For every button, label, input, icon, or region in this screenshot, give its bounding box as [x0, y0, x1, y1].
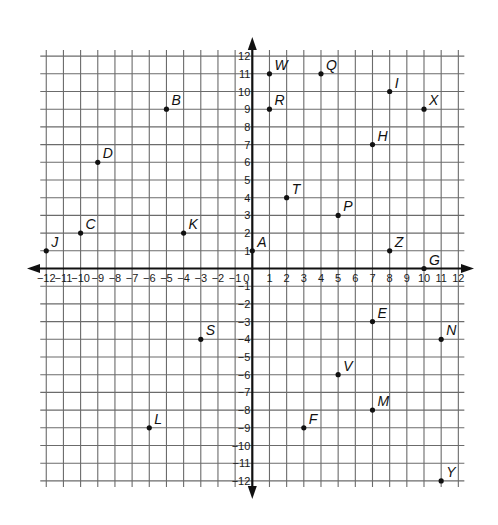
y-tick-label: −9 — [238, 422, 251, 434]
x-tick-label: 2 — [284, 272, 290, 284]
x-tick-label: 9 — [404, 272, 410, 284]
point-label: E — [377, 305, 387, 321]
point-marker — [336, 372, 341, 377]
point-label: W — [274, 57, 289, 73]
point-marker — [370, 142, 375, 147]
point-label: G — [429, 252, 440, 268]
point-marker — [439, 478, 444, 483]
y-tick-label: −7 — [238, 386, 251, 398]
point-marker — [301, 425, 306, 430]
point-marker — [267, 107, 272, 112]
point-label: Y — [446, 464, 457, 480]
point-marker — [164, 107, 169, 112]
x-tick-label: 6 — [352, 272, 358, 284]
y-tick-label: 7 — [244, 139, 250, 151]
point-marker — [421, 107, 426, 112]
y-tick-label: 6 — [244, 156, 250, 168]
point-marker — [387, 248, 392, 253]
point-label: Z — [394, 234, 404, 250]
point-marker — [78, 231, 83, 236]
y-tick-label: 11 — [239, 68, 250, 80]
point-label: I — [395, 75, 399, 91]
x-tick-label: 11 — [435, 272, 446, 284]
x-tick-label: −9 — [91, 272, 104, 284]
x-tick-label: 5 — [335, 272, 341, 284]
y-tick-label: 9 — [244, 103, 250, 115]
y-tick-label: 12 — [238, 50, 250, 62]
point-label: B — [171, 92, 180, 108]
point-marker — [250, 248, 255, 253]
x-tick-label: −6 — [143, 272, 156, 284]
y-tick-label: 5 — [244, 174, 250, 186]
point-marker — [370, 319, 375, 324]
x-tick-label: 1 — [266, 272, 272, 284]
point-label: X — [428, 92, 439, 108]
x-tick-label: 3 — [301, 272, 307, 284]
point-label: K — [189, 216, 199, 232]
x-tick-label: −11 — [55, 272, 73, 284]
y-tick-label: −12 — [232, 475, 251, 487]
point-marker — [284, 195, 289, 200]
y-tick-label: 2 — [244, 227, 250, 239]
point-label: V — [343, 358, 354, 374]
x-tick-label: 4 — [318, 272, 324, 284]
point-marker — [387, 89, 392, 94]
coordinate-plane: −12−11−10−9−8−7−6−5−4−3−2−10123456789101… — [0, 0, 498, 525]
x-tick-label: −2 — [212, 272, 225, 284]
y-tick-label: −6 — [238, 369, 251, 381]
point-label: M — [377, 393, 389, 409]
point-marker — [336, 213, 341, 218]
point-marker — [44, 248, 49, 253]
point-label: D — [103, 145, 113, 161]
point-marker — [147, 425, 152, 430]
y-tick-label: 4 — [244, 192, 250, 204]
point-label: P — [343, 198, 353, 214]
y-tick-label: 8 — [244, 121, 250, 133]
point-label: L — [154, 411, 162, 427]
point-marker — [318, 71, 323, 76]
x-tick-label: 7 — [369, 272, 375, 284]
x-tick-label: −7 — [126, 272, 139, 284]
x-tick-label: 8 — [387, 272, 393, 284]
y-tick-label: 3 — [244, 209, 250, 221]
y-tick-label: −10 — [232, 440, 251, 452]
y-axis-down-arrow-icon — [248, 486, 257, 499]
point-label: R — [274, 92, 284, 108]
x-tick-label: −3 — [195, 272, 208, 284]
x-tick-label: −8 — [109, 272, 122, 284]
point-label: N — [446, 322, 457, 338]
x-tick-label: 12 — [452, 272, 464, 284]
point-marker — [439, 337, 444, 342]
x-tick-label: 10 — [418, 272, 430, 284]
x-tick-label: −12 — [37, 272, 56, 284]
y-tick-label: −11 — [232, 457, 250, 469]
y-tick-label: −5 — [238, 351, 251, 363]
y-tick-label: −2 — [238, 298, 251, 310]
x-tick-label: −10 — [71, 272, 90, 284]
point-marker — [267, 71, 272, 76]
y-tick-label: −8 — [238, 404, 251, 416]
point-marker — [198, 337, 203, 342]
point-marker — [95, 160, 100, 165]
x-tick-label: −5 — [160, 272, 173, 284]
point-label: T — [292, 181, 302, 197]
point-label: H — [377, 128, 388, 144]
y-tick-label: −4 — [238, 333, 251, 345]
point-label: S — [206, 322, 216, 338]
point-marker — [370, 408, 375, 413]
y-tick-label: 1 — [244, 245, 250, 257]
y-tick-label: 10 — [238, 86, 250, 98]
point-label: Q — [326, 57, 337, 73]
point-label: J — [50, 234, 59, 250]
x-tick-label: −4 — [177, 272, 190, 284]
plotted-points: ABCDEFGHIJKLMNPQRSTVWXYZ — [44, 57, 458, 484]
point-marker — [181, 231, 186, 236]
point-marker — [421, 266, 426, 271]
y-axis-up-arrow-icon — [248, 37, 257, 50]
y-tick-label: −3 — [238, 316, 251, 328]
point-label: C — [86, 216, 97, 232]
point-label: F — [309, 411, 319, 427]
point-label: A — [256, 234, 266, 250]
y-tick-label: −1 — [238, 280, 251, 292]
